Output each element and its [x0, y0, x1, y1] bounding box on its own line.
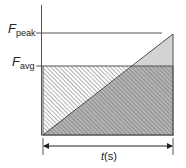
- peak-label: Fpeak: [8, 21, 36, 38]
- avg-label: Favg: [12, 54, 34, 71]
- avg-hatch: [43, 66, 173, 135]
- force-time-diagram: Fpeak Favg t(s): [0, 0, 186, 168]
- time-axis-label: t(s): [101, 150, 117, 162]
